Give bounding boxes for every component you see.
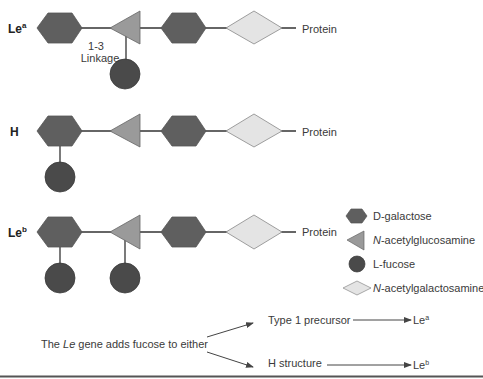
galactosamine-diamond-icon	[226, 114, 282, 147]
legend-circle-icon	[349, 256, 365, 272]
fucose-circle-icon	[110, 263, 140, 293]
branch-type1-precursor: Type 1 precursor	[268, 314, 351, 326]
protein-label: Protein	[302, 126, 337, 138]
arrow-up-icon	[207, 323, 253, 337]
legend-diamond-icon	[343, 281, 371, 295]
glucosamine-triangle-icon	[110, 114, 140, 147]
row-label-h: H	[10, 125, 19, 139]
result-lea: Lea	[413, 314, 429, 326]
galactose-hexagon-icon	[161, 116, 206, 146]
legend-label: N-acetylgalactosamine	[373, 282, 483, 294]
legend-label: D-galactose	[373, 210, 432, 222]
row-label-leb: Leb	[8, 225, 27, 240]
fucose-circle-icon	[45, 263, 75, 293]
arrow-down-icon	[207, 352, 253, 367]
pathway-statement: The Le gene adds fucose to either	[41, 338, 208, 350]
galactosamine-diamond-icon	[226, 11, 282, 44]
galactosamine-diamond-icon	[226, 215, 282, 249]
galactose-hexagon-icon	[37, 217, 82, 247]
row-h: H Protein	[10, 114, 337, 192]
galactose-hexagon-icon	[161, 217, 206, 247]
legend-label: N-acetylglucosamine	[373, 234, 475, 246]
glucosamine-triangle-icon	[110, 11, 140, 44]
branch-h-structure: H structure	[268, 357, 322, 369]
legend-hexagon-icon	[346, 209, 367, 223]
linkage-label: Linkage	[81, 52, 120, 64]
row-leb: Leb Protein	[8, 215, 337, 293]
fucose-circle-icon	[45, 162, 75, 192]
galactose-hexagon-icon	[37, 13, 82, 43]
legend: D-galactose N-acetylglucosamine L-fucose…	[343, 209, 483, 295]
galactose-hexagon-icon	[161, 13, 206, 43]
row-lea: Lea Protein 1-3 Linkage	[8, 11, 337, 89]
legend-triangle-icon	[347, 231, 364, 250]
result-leb: Leb	[413, 359, 429, 371]
legend-label: L-fucose	[373, 258, 415, 270]
row-label-lea: Lea	[8, 21, 27, 36]
protein-label: Protein	[302, 23, 337, 35]
linkage-label: 1-3	[88, 40, 104, 52]
pathway: The Le gene adds fucose to either Type 1…	[41, 314, 429, 371]
galactose-hexagon-icon	[37, 116, 82, 146]
lewis-antigen-diagram: Lea Protein 1-3 Linkage H Protein Leb	[0, 0, 483, 379]
protein-label: Protein	[302, 226, 337, 238]
